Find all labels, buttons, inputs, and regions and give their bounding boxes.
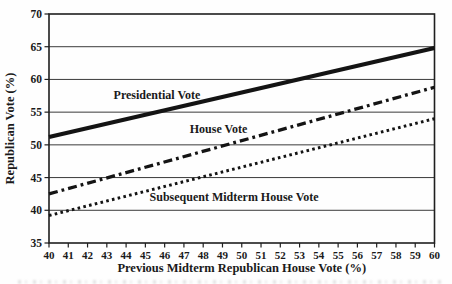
series-label: House Vote: [190, 122, 248, 136]
y-tick-label: 40: [31, 204, 43, 216]
x-tick-label: 53: [294, 249, 306, 261]
x-tick-label: 55: [333, 249, 345, 261]
chart-figure: 3540455055606570404142434445464748495051…: [0, 0, 452, 284]
x-tick-label: 48: [198, 249, 210, 261]
cropped-caption-remnant: [18, 280, 442, 284]
series-label: Presidential Vote: [114, 88, 201, 102]
x-tick-label: 41: [63, 249, 74, 261]
y-tick-label: 45: [31, 172, 43, 184]
y-tick-label: 65: [31, 41, 43, 53]
x-tick-label: 59: [410, 249, 422, 261]
x-tick-label: 60: [429, 249, 441, 261]
series-label: Subsequent Midterm House Vote: [150, 190, 320, 204]
y-tick-label: 60: [31, 73, 43, 85]
x-axis-title: Previous Midterm Republican House Vote (…: [117, 261, 366, 275]
y-tick-label: 55: [31, 106, 43, 118]
y-axis-title: Republican Vote (%): [3, 73, 17, 185]
x-tick-label: 42: [82, 249, 94, 261]
x-tick-label: 54: [313, 249, 325, 261]
y-tick-label: 70: [31, 8, 43, 20]
y-tick-label: 35: [31, 237, 43, 249]
x-tick-label: 46: [159, 249, 171, 261]
x-tick-label: 44: [121, 249, 133, 261]
x-tick-label: 47: [178, 249, 190, 261]
x-tick-label: 43: [101, 249, 113, 261]
x-tick-label: 40: [44, 249, 56, 261]
x-tick-label: 45: [140, 249, 152, 261]
y-tick-label: 50: [31, 139, 43, 151]
x-tick-label: 56: [352, 249, 364, 261]
x-tick-label: 49: [217, 249, 229, 261]
x-tick-label: 52: [275, 249, 287, 261]
x-tick-label: 51: [256, 249, 267, 261]
x-tick-label: 58: [390, 249, 402, 261]
line-chart: 3540455055606570404142434445464748495051…: [0, 0, 452, 284]
x-tick-label: 50: [236, 249, 248, 261]
x-tick-label: 57: [371, 249, 383, 261]
